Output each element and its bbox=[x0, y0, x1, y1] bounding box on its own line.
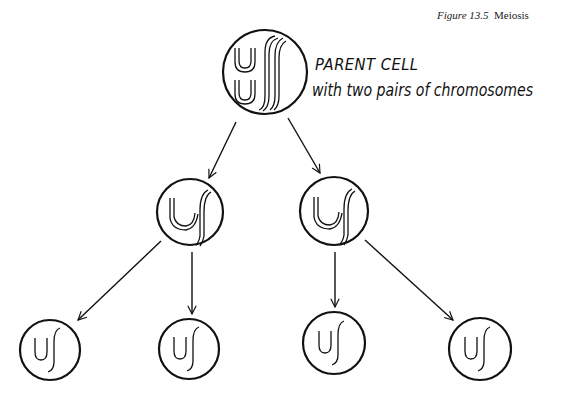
u-chromosome bbox=[174, 337, 186, 359]
u-chromosome bbox=[35, 338, 47, 360]
figure-caption: Figure 13.5 Meiosis bbox=[437, 9, 529, 21]
daughter-2-chromosomes bbox=[314, 189, 355, 245]
parent-chromosomes bbox=[235, 36, 286, 111]
daughter-1-chromosomes bbox=[170, 190, 211, 246]
parent-cell-description: with two pairs of chromosomes bbox=[312, 80, 533, 100]
s-chromosome bbox=[478, 327, 490, 371]
figure-number: Figure 13.5 bbox=[437, 9, 489, 21]
arrow-daughter-2-to-gamete-4 bbox=[365, 240, 453, 320]
gamete-chromosomes bbox=[35, 321, 490, 372]
s-chromosome bbox=[332, 321, 344, 365]
arrow-daughter-1-to-gamete-1 bbox=[78, 241, 161, 320]
division-arrows bbox=[78, 118, 453, 320]
cell-daughter-1 bbox=[157, 179, 223, 245]
arrow-parent-to-daughter-1 bbox=[209, 122, 236, 178]
parent-cell-label: PARENT CELL bbox=[315, 55, 418, 74]
s-chromosome bbox=[187, 327, 199, 371]
figure-title: Meiosis bbox=[494, 9, 529, 21]
u-chromosome bbox=[319, 331, 331, 353]
u-chromosome bbox=[465, 337, 477, 359]
cell-daughter-2 bbox=[300, 177, 368, 245]
meiosis-diagram bbox=[0, 0, 565, 398]
arrow-parent-to-daughter-2 bbox=[288, 118, 320, 173]
s-chromosome bbox=[48, 328, 60, 372]
